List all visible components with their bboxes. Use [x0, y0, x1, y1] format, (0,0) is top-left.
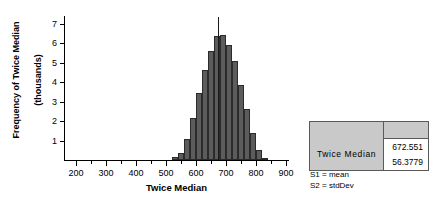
x-axis-tick — [106, 161, 107, 166]
y-axis-tick — [60, 63, 64, 64]
y-axis-title: Frequency of Twice Median (thousands) — [0, 0, 44, 160]
y-axis-tick — [60, 121, 64, 122]
x-axis-tick — [286, 161, 287, 166]
y-axis-tick-label: 7 — [52, 19, 57, 29]
y-axis-tick — [60, 43, 64, 44]
y-axis-tick — [60, 141, 64, 142]
y-axis-tick-label: 3 — [52, 97, 57, 107]
x-axis-tick — [76, 161, 77, 166]
x-axis-tick-label: 500 — [158, 168, 173, 178]
y-axis-tick-label: 4 — [52, 77, 57, 87]
x-axis-tick-label: 300 — [98, 168, 113, 178]
x-axis-minor-tick — [241, 161, 242, 164]
stats-table-header-row — [310, 122, 428, 138]
x-axis-tick-label: 400 — [128, 168, 143, 178]
x-axis-minor-tick — [151, 161, 152, 164]
footnote-s1: S1 = mean — [310, 169, 354, 180]
stats-header-cell-left — [310, 122, 384, 138]
y-axis-title-line1: Frequency of Twice Median — [11, 22, 21, 139]
x-axis-tick-label: 800 — [248, 168, 263, 178]
x-axis-minor-tick — [271, 161, 272, 164]
y-axis-tick-label: 1 — [52, 136, 57, 146]
x-axis-tick — [196, 161, 197, 166]
y-axis-tick-label: 2 — [52, 116, 57, 126]
y-axis-tick — [60, 82, 64, 83]
chart-page: Frequency of Twice Median (thousands) 12… — [0, 0, 438, 205]
x-axis-tick — [256, 161, 257, 166]
histogram-figure: Frequency of Twice Median (thousands) 12… — [0, 0, 300, 205]
footnote-s2: S2 = stdDev — [310, 180, 354, 191]
x-axis-minor-tick — [91, 161, 92, 164]
x-axis-tick — [226, 161, 227, 166]
y-axis-tick — [60, 24, 64, 25]
y-axis-tick-label: 5 — [52, 58, 57, 68]
x-axis-tick-label: 700 — [218, 168, 233, 178]
stats-row-label: Twice Median — [310, 138, 384, 170]
x-axis-minor-tick — [211, 161, 212, 164]
x-axis-tick-label: 200 — [68, 168, 83, 178]
median-marker-line — [218, 17, 219, 160]
stats-header-cell-right — [384, 122, 428, 138]
stats-footnotes: S1 = mean S2 = stdDev — [310, 169, 354, 191]
x-axis-title: Twice Median — [64, 182, 289, 193]
y-axis-line — [64, 16, 65, 161]
stats-values-cell: 672.551 56.3779 — [383, 138, 428, 170]
x-axis-tick — [136, 161, 137, 166]
x-axis-minor-tick — [121, 161, 122, 164]
y-axis-tick — [60, 102, 64, 103]
x-axis-tick-label: 900 — [278, 168, 293, 178]
stats-value-mean: 672.551 — [384, 140, 428, 155]
x-axis-tick-label: 600 — [188, 168, 203, 178]
x-axis-tick — [166, 161, 167, 166]
plot-area: 1234567200300400500600700800900 — [64, 16, 289, 161]
x-axis-minor-tick — [181, 161, 182, 164]
histogram-bar — [262, 158, 268, 160]
y-axis-title-line2: (thousands) — [33, 54, 43, 106]
stats-value-stddev: 56.3779 — [384, 155, 428, 170]
stats-table: Twice Median 672.551 56.3779 — [309, 121, 429, 171]
stats-table-row: Twice Median 672.551 56.3779 — [310, 138, 428, 170]
y-axis-tick-label: 6 — [52, 38, 57, 48]
